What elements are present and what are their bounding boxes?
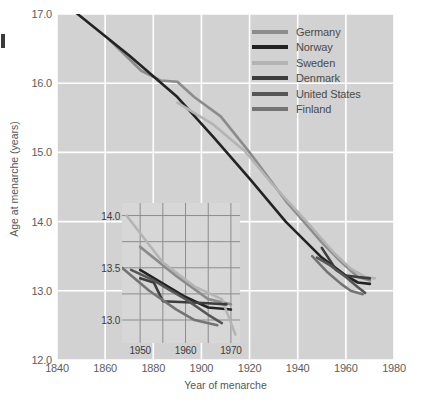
legend-swatch (252, 76, 288, 80)
legend-swatch (252, 107, 288, 111)
legend-label: Sweden (296, 57, 335, 69)
legend-item-denmark[interactable]: Denmark (252, 71, 392, 87)
legend-item-finland[interactable]: Finland (252, 102, 392, 118)
legend-swatch (252, 61, 288, 65)
legend-label: Finland (296, 103, 331, 115)
inset-y-axis-tick: 13.5 (78, 262, 120, 273)
legend-label: Germany (296, 26, 341, 38)
legend: GermanyNorwaySwedenDenmarkUnited StatesF… (252, 24, 392, 117)
y-axis-title: Age at menarche (years) (8, 89, 20, 269)
y-axis-tick: 13.0 (0, 285, 52, 297)
inset-y-axis-tick-labels: 13.013.514.0 (78, 203, 120, 343)
inset-y-axis-tick: 13.0 (78, 315, 120, 326)
legend-label: United States (296, 88, 361, 100)
inset-y-axis-tick: 14.0 (78, 210, 120, 221)
legend-item-germany[interactable]: Germany (252, 24, 392, 40)
legend-item-sweden[interactable]: Sweden (252, 55, 392, 71)
inset-plot-area (122, 203, 240, 343)
legend-swatch (252, 30, 288, 34)
inset-x-axis-tick-labels: 195019601970 (122, 345, 240, 359)
y-axis-tick: 17.0 (0, 8, 52, 20)
inset-x-axis-tick: 1960 (163, 345, 209, 356)
chart-figure: 12.013.014.015.016.017.0 Age at menarche… (0, 0, 425, 412)
legend-item-norway[interactable]: Norway (252, 40, 392, 56)
legend-label: Norway (296, 41, 333, 53)
x-axis-tick-labels: 18401860188019001920194019601980 (57, 362, 394, 378)
x-axis-title: Year of menarche (57, 379, 394, 391)
legend-item-united-states[interactable]: United States (252, 86, 392, 102)
inset-plot-svg (122, 203, 240, 343)
inset-x-axis-tick: 1950 (117, 345, 163, 356)
y-axis-tick: 16.0 (0, 77, 52, 89)
legend-swatch (252, 45, 288, 49)
inset-x-axis-tick: 1970 (208, 345, 254, 356)
x-axis-tick: 1980 (364, 362, 424, 374)
legend-label: Denmark (296, 72, 340, 84)
legend-swatch (252, 92, 288, 96)
